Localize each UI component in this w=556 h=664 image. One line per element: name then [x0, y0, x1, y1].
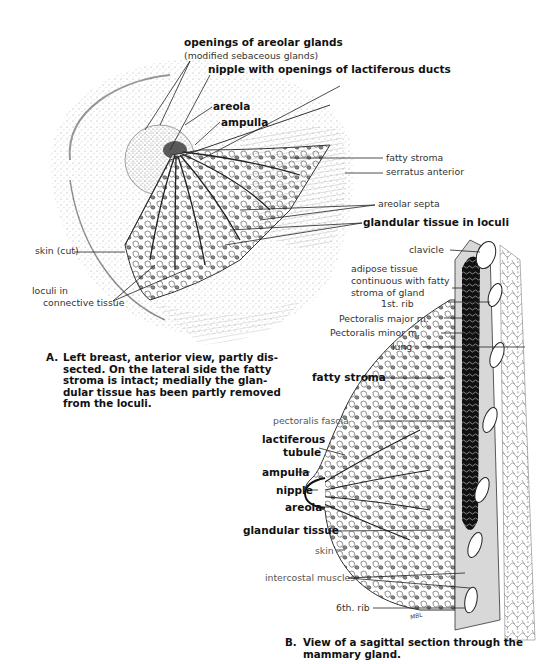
label-sixth-rib: 6th. rib: [336, 603, 370, 612]
label-pectoralis-fascia: pectoralis fascia: [273, 416, 349, 425]
label-areola-b: areola: [285, 502, 322, 513]
label-adipose-line2: continuous with fatty: [351, 276, 450, 285]
label-tubule: tubule: [283, 447, 321, 458]
label-openings-areolar-glands: openings of areolar glands: [184, 37, 343, 48]
label-fatty-stroma-b: fatty stroma: [312, 372, 386, 383]
label-ampulla-b: ampulla: [262, 467, 309, 478]
label-areolar-septa: areolar septa: [378, 199, 440, 208]
label-skin-b: skin: [315, 546, 334, 555]
caption-b-text: View of a sagittal section through the m…: [303, 637, 523, 660]
caption-a-letter: A.: [46, 352, 58, 364]
label-glandular-tissue-b: glandular tissue: [243, 525, 339, 536]
label-glandular-tissue-in-loculi: glandular tissue in loculi: [363, 217, 509, 228]
label-connective-tissue: connective tissue: [43, 298, 124, 307]
label-intercostal-muscles: intercostal muscles: [265, 573, 355, 582]
label-nipple-openings-lactiferous-ducts: nipple with openings of lactiferous duct…: [208, 64, 451, 75]
label-adipose-line1: adipose tissue: [351, 264, 418, 273]
label-clavicle: clavicle: [409, 245, 444, 254]
label-lung: lung: [392, 342, 412, 351]
label-areola-a: areola: [213, 101, 250, 112]
label-pectoralis-minor: Pectoralis minor m.: [330, 328, 420, 337]
label-modified-sebaceous-glands: (modified sebaceous glands): [184, 51, 318, 60]
label-adipose-line3: stroma of gland: [351, 288, 424, 297]
anatomy-illustration: [0, 0, 556, 664]
label-pectoralis-major: Pectoralis major m.: [339, 314, 429, 323]
label-fatty-stroma-a: fatty stroma: [386, 153, 443, 162]
caption-b-letter: B.: [285, 637, 297, 649]
label-ampulla-a: ampulla: [221, 117, 268, 128]
label-nipple-b: nipple: [276, 485, 313, 496]
caption-figure-b: B. View of a sagittal section through th…: [285, 637, 545, 663]
label-serratus-anterior: serratus anterior: [386, 167, 464, 176]
caption-a-text: Left breast, anterior view, partly dis- …: [63, 352, 281, 410]
label-lactiferous: lactiferous: [262, 434, 325, 445]
label-loculi-in: loculi in: [32, 286, 68, 295]
label-first-rib: 1st. rib: [381, 299, 414, 308]
caption-figure-a: A. Left breast, anterior view, partly di…: [46, 352, 266, 412]
label-skin-cut: skin (cut): [35, 246, 79, 255]
